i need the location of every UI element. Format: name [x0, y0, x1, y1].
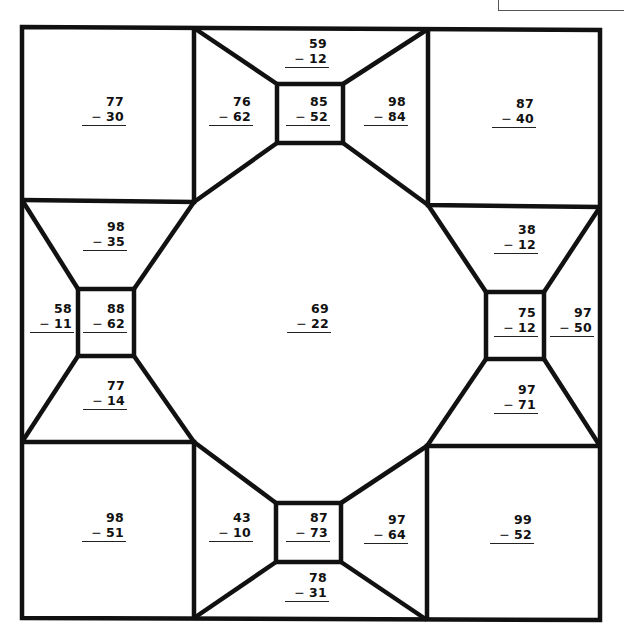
subtrahend: 35 — [107, 234, 125, 249]
subtrahend-line: −51 — [82, 525, 126, 542]
subtrahend: 10 — [233, 525, 251, 540]
minuend: 88 — [83, 301, 127, 316]
minus-sign: − — [503, 397, 514, 412]
subtrahend: 22 — [311, 316, 329, 331]
subtrahend-line: −22 — [287, 316, 331, 333]
problem-left-top-trapezoid: 98 −35 — [83, 219, 127, 251]
subtrahend: 73 — [310, 525, 328, 540]
problem-left-bottom-trapezoid: 77 −14 — [83, 378, 127, 410]
subtrahend: 12 — [309, 51, 327, 66]
problem-top-trapezoid: 59 −12 — [285, 36, 329, 68]
subtrahend-line: −50 — [550, 320, 594, 337]
subtrahend: 12 — [518, 237, 536, 252]
subtrahend-line: −31 — [285, 585, 329, 602]
minuend: 78 — [285, 570, 329, 585]
minuend: 59 — [285, 36, 329, 51]
minuend: 43 — [209, 510, 253, 525]
minus-sign: − — [503, 320, 514, 335]
subtrahend: 64 — [388, 527, 406, 542]
subtrahend: 40 — [516, 111, 534, 126]
minus-sign: − — [218, 109, 229, 124]
subtrahend: 84 — [388, 109, 406, 124]
minuend: 98 — [82, 510, 126, 525]
minuend: 97 — [550, 305, 594, 320]
subtrahend-line: −30 — [82, 109, 126, 126]
minus-sign: − — [501, 111, 512, 126]
subtrahend-line: −11 — [30, 316, 74, 333]
subtrahend-line: −12 — [494, 320, 538, 337]
subtrahend-line: −35 — [83, 234, 127, 251]
problem-bottom-left-square: 98 −51 — [82, 510, 126, 542]
subtrahend: 71 — [518, 397, 536, 412]
problem-left-center-square: 88 −62 — [83, 301, 127, 333]
problem-bottom-right-square: 99 −52 — [490, 512, 534, 544]
minus-sign: − — [373, 527, 384, 542]
minus-sign: − — [503, 237, 514, 252]
subtrahend-line: −73 — [286, 525, 330, 542]
minuend: 97 — [494, 382, 538, 397]
minus-sign: − — [559, 320, 570, 335]
subtrahend: 51 — [106, 525, 124, 540]
problem-top-right-trapezoid: 98 −84 — [364, 94, 408, 126]
subtrahend-line: −84 — [364, 109, 408, 126]
minus-sign: − — [373, 109, 384, 124]
minuend: 99 — [490, 512, 534, 527]
minus-sign: − — [92, 234, 103, 249]
minus-sign: − — [218, 525, 229, 540]
minuend: 77 — [83, 378, 127, 393]
minuend: 98 — [83, 219, 127, 234]
minuend: 58 — [30, 301, 74, 316]
subtrahend: 62 — [233, 109, 251, 124]
subtrahend-line: −12 — [285, 51, 329, 68]
problem-top-left-trapezoid: 76 −62 — [209, 94, 253, 126]
subtrahend: 11 — [54, 316, 72, 331]
problem-bottom-left-trapezoid: 43 −10 — [209, 510, 253, 542]
minuend: 77 — [82, 94, 126, 109]
subtrahend-line: −64 — [364, 527, 408, 544]
minus-sign: − — [294, 585, 305, 600]
subtrahend-line: −62 — [83, 316, 127, 333]
subtrahend-line: −71 — [494, 397, 538, 414]
subtrahend: 62 — [107, 316, 125, 331]
problem-top-center-square: 85 −52 — [286, 94, 330, 126]
minus-sign: − — [294, 51, 305, 66]
subtrahend-line: −52 — [490, 527, 534, 544]
minus-sign: − — [92, 393, 103, 408]
subtrahend: 14 — [107, 393, 125, 408]
minus-sign: − — [295, 109, 306, 124]
problem-top-left-square: 77 −30 — [82, 94, 126, 126]
minuend: 87 — [492, 96, 536, 111]
problem-right-top-trapezoid: 38 −12 — [494, 222, 538, 254]
minus-sign: − — [39, 316, 50, 331]
minuend: 87 — [286, 510, 330, 525]
problem-right-center-square: 75 −12 — [494, 305, 538, 337]
problem-bottom-center-square: 87 −73 — [286, 510, 330, 542]
minuend: 69 — [287, 301, 331, 316]
minuend: 76 — [209, 94, 253, 109]
minus-sign: − — [91, 525, 102, 540]
minuend: 75 — [494, 305, 538, 320]
problem-center-octagon: 69 −22 — [287, 301, 331, 333]
subtrahend: 50 — [574, 320, 592, 335]
problem-right-bottom-trapezoid: 97 −71 — [494, 382, 538, 414]
subtrahend: 30 — [106, 109, 124, 124]
subtrahend: 31 — [309, 585, 327, 600]
minus-sign: − — [499, 527, 510, 542]
subtrahend-line: −52 — [286, 109, 330, 126]
minuend: 98 — [364, 94, 408, 109]
minuend: 97 — [364, 512, 408, 527]
subtrahend-line: −14 — [83, 393, 127, 410]
problem-bottom-trapezoid: 78 −31 — [285, 570, 329, 602]
subtrahend: 52 — [514, 527, 532, 542]
problem-left-outer-trapezoid: 58 −11 — [30, 301, 74, 333]
minuend: 85 — [286, 94, 330, 109]
subtrahend-line: −40 — [492, 111, 536, 128]
problem-top-right-square: 87 −40 — [492, 96, 536, 128]
subtrahend-line: −62 — [209, 109, 253, 126]
minus-sign: − — [92, 316, 103, 331]
problem-bottom-right-trapezoid: 97 −64 — [364, 512, 408, 544]
minus-sign: − — [295, 525, 306, 540]
subtrahend-line: −10 — [209, 525, 253, 542]
subtrahend-line: −12 — [494, 237, 538, 254]
minuend: 38 — [494, 222, 538, 237]
